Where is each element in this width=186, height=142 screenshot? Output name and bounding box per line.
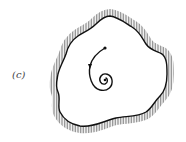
hatched-boundary-band	[56, 16, 167, 126]
phase-portrait-figure	[0, 0, 186, 142]
start-point	[103, 46, 106, 49]
fixed-point	[104, 79, 107, 82]
direction-arrow-icon	[88, 64, 92, 69]
spiral-trajectory	[89, 48, 112, 90]
